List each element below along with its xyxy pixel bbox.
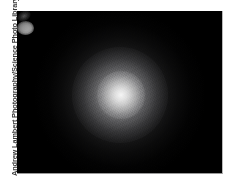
bright-star-core-icon [17, 21, 34, 35]
photo-credit: Andrew Lambert Photography/Science Photo… [0, 0, 14, 180]
astronomy-photo [17, 11, 223, 174]
circular-nebula-disc-icon [72, 47, 168, 143]
vignette-overlay [17, 11, 222, 173]
inner-glow-icon [97, 71, 145, 119]
outer-halo-icon [22, 11, 218, 174]
film-grain-overlay [17, 11, 222, 173]
